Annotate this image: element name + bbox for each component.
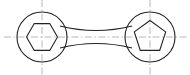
technical-drawing-svg	[0, 0, 190, 75]
centerline-group	[4, 0, 188, 75]
technical-drawing-canvas	[0, 0, 190, 75]
